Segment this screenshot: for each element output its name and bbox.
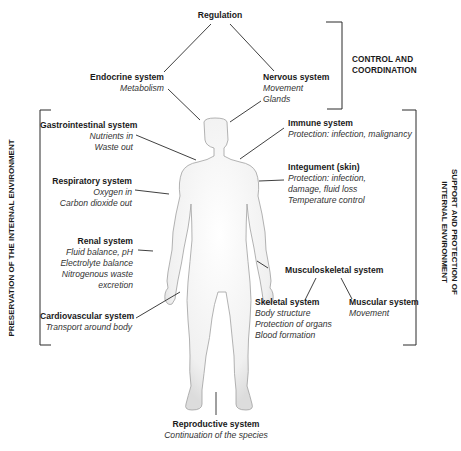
regulation-label: Regulation [190,10,250,21]
body-systems-diagram: Regulation CONTROL AND COORDINATION Endo… [0,0,461,451]
human-figure [165,118,273,410]
control-coordination-caption: CONTROL AND COORDINATION [352,54,417,76]
gastrointestinal-system-label: Gastrointestinal system Nutrients in Was… [40,120,133,153]
immune-system-label: Immune system Protection: infection, mal… [288,118,412,140]
cardiovascular-system-label: Cardiovascular system Transport around b… [40,311,132,333]
support-protection-caption: SUPPORT AND PROTECTION OF INTERNAL ENVIR… [439,169,459,295]
reproductive-system-label: Reproductive system Continuation of the … [156,419,276,441]
nervous-system-label: Nervous system Movement Glands [263,72,329,105]
musculoskeletal-system-label: Musculoskeletal system [285,265,383,276]
skeletal-system-label: Skeletal system Body structure Protectio… [255,297,332,341]
integument-label: Integument (skin) Protection: infection,… [288,162,366,206]
endocrine-system-label: Endocrine system Metabolism [80,72,164,94]
preservation-caption: PRESERVATION OF THE INTERNAL ENVIRONMENT [7,139,16,336]
respiratory-system-label: Respiratory system Oxygen in Carbon diox… [40,176,132,209]
renal-system-label: Renal system Fluid balance, pH Electroly… [40,236,133,291]
muscular-system-label: Muscular system Movement [349,297,419,319]
